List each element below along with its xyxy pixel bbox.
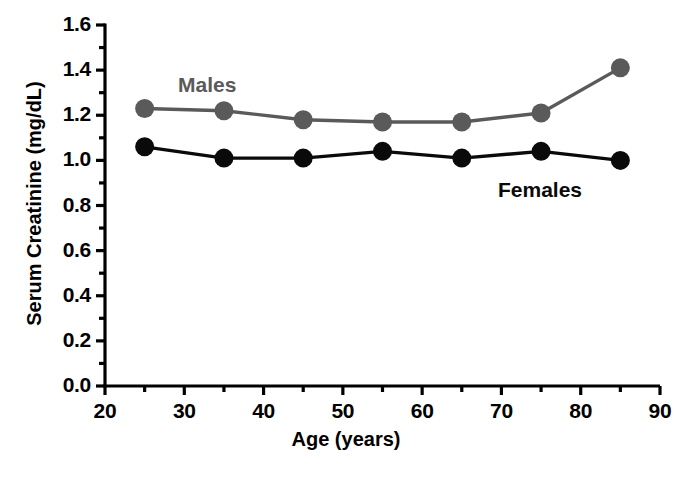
y-axis-title: Serum Creatinine (mg/dL)	[23, 24, 46, 384]
data-point-females-65	[452, 149, 471, 168]
data-point-males-85	[611, 58, 630, 77]
chart-figure: 0.00.20.40.60.81.01.21.41.6 203040506070…	[0, 0, 692, 486]
data-point-males-45	[294, 110, 313, 129]
data-point-females-55	[373, 142, 392, 161]
x-tick-label-70: 70	[471, 399, 531, 423]
data-point-males-35	[214, 101, 233, 120]
data-point-females-35	[214, 149, 233, 168]
series-label-females: Females	[498, 178, 582, 202]
x-tick-label-30: 30	[154, 399, 214, 423]
data-point-females-45	[294, 149, 313, 168]
x-tick-label-50: 50	[313, 399, 373, 423]
data-point-males-75	[532, 103, 551, 122]
x-tick-label-20: 20	[75, 399, 135, 423]
data-point-males-65	[452, 113, 471, 132]
x-tick-label-40: 40	[234, 399, 294, 423]
series-label-males: Males	[178, 73, 236, 97]
data-point-females-25	[135, 137, 154, 156]
data-point-males-55	[373, 113, 392, 132]
x-tick-label-90: 90	[630, 399, 690, 423]
x-axis-title: Age (years)	[0, 428, 692, 451]
data-point-males-25	[135, 99, 154, 118]
x-tick-label-80: 80	[551, 399, 611, 423]
caption-fragment	[0, 470, 692, 486]
data-point-females-85	[611, 151, 630, 170]
x-tick-label-60: 60	[392, 399, 452, 423]
data-point-females-75	[532, 142, 551, 161]
